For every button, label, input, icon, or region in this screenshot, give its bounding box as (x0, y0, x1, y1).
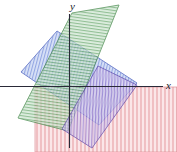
x-axis-label: x (166, 80, 171, 91)
half-plane-intersection-figure: y x (0, 0, 177, 152)
y-axis-label: y (70, 1, 75, 12)
figure-canvas (0, 0, 177, 152)
region-layer (18, 5, 177, 152)
